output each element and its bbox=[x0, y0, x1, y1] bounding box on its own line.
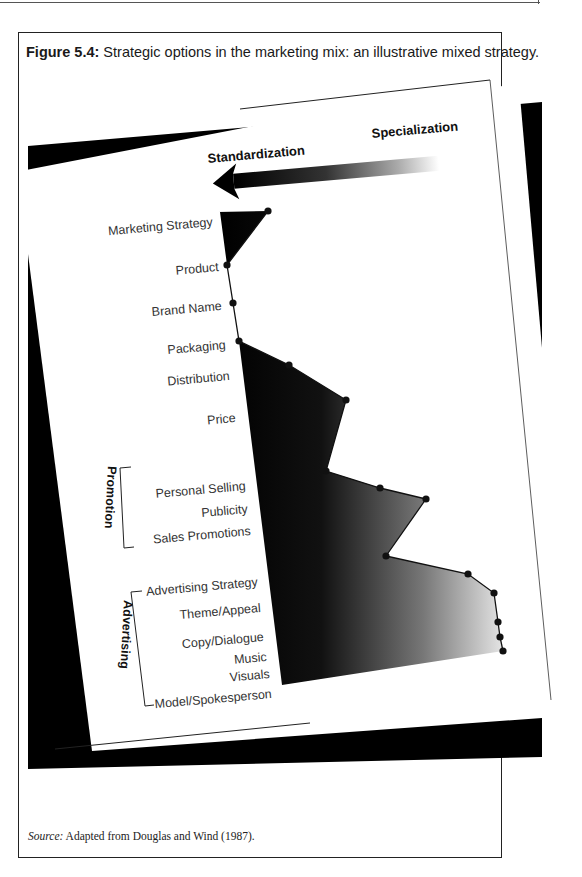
data-point-marker bbox=[376, 484, 383, 491]
data-point-marker bbox=[223, 261, 230, 268]
data-point-marker bbox=[494, 618, 501, 625]
source-label: Source: bbox=[28, 830, 63, 842]
figure-source: Source: Adapted from Douglas and Wind (1… bbox=[28, 830, 255, 842]
data-point-marker bbox=[496, 633, 503, 640]
data-point-marker bbox=[235, 337, 242, 344]
data-point-marker bbox=[322, 467, 329, 474]
data-point-marker bbox=[264, 207, 271, 214]
label-price: Price bbox=[207, 411, 237, 427]
data-point-marker bbox=[490, 589, 497, 596]
data-point-marker bbox=[285, 361, 292, 368]
data-point-marker bbox=[422, 495, 429, 502]
data-point-marker bbox=[229, 299, 236, 306]
label-music: Music bbox=[234, 650, 268, 667]
data-point-marker bbox=[499, 647, 506, 654]
source-text: Adapted from Douglas and Wind (1987). bbox=[66, 830, 255, 842]
figure-artwork: Standardization Specialization Marketing… bbox=[0, 0, 582, 877]
data-point-marker bbox=[382, 552, 389, 559]
data-point-marker bbox=[464, 570, 471, 577]
data-point-marker bbox=[342, 396, 349, 403]
